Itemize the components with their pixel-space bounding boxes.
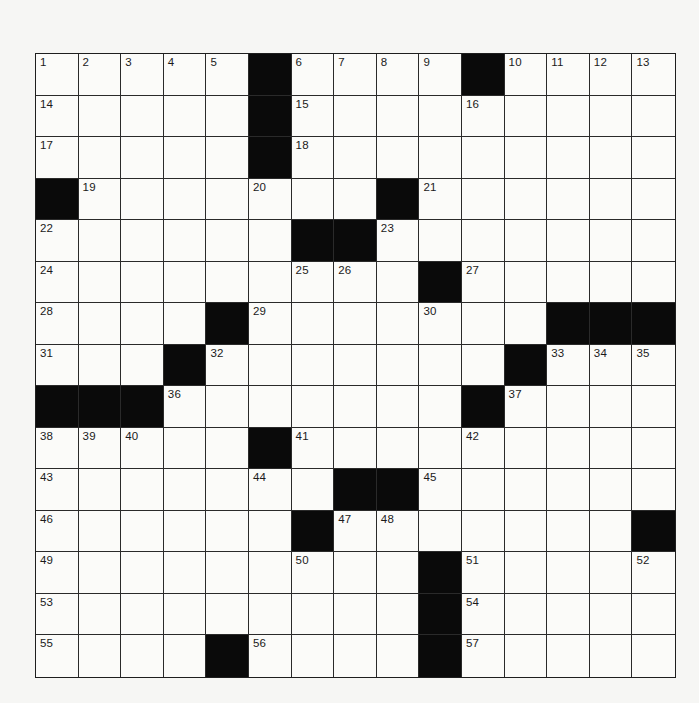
- grid-cell[interactable]: 46: [36, 511, 79, 553]
- grid-cell[interactable]: [419, 386, 462, 428]
- grid-cell[interactable]: [79, 137, 122, 179]
- grid-cell[interactable]: [377, 552, 420, 594]
- grid-cell[interactable]: 19: [79, 179, 122, 221]
- grid-cell[interactable]: [632, 386, 675, 428]
- grid-cell[interactable]: [206, 220, 249, 262]
- grid-cell[interactable]: 37: [505, 386, 548, 428]
- grid-cell[interactable]: [632, 262, 675, 304]
- grid-cell[interactable]: [505, 220, 548, 262]
- grid-cell[interactable]: 55: [36, 635, 79, 677]
- grid-cell[interactable]: 30: [419, 303, 462, 345]
- grid-cell[interactable]: [292, 345, 335, 387]
- grid-cell[interactable]: [164, 303, 207, 345]
- grid-cell[interactable]: [249, 594, 292, 636]
- grid-cell[interactable]: 1: [36, 54, 79, 96]
- grid-cell[interactable]: [79, 635, 122, 677]
- grid-cell[interactable]: [292, 179, 335, 221]
- grid-cell[interactable]: [249, 511, 292, 553]
- grid-cell[interactable]: [590, 469, 633, 511]
- grid-cell[interactable]: [334, 594, 377, 636]
- grid-cell[interactable]: [164, 220, 207, 262]
- grid-cell[interactable]: 52: [632, 552, 675, 594]
- grid-cell[interactable]: [590, 179, 633, 221]
- grid-cell[interactable]: [121, 137, 164, 179]
- grid-cell[interactable]: 32: [206, 345, 249, 387]
- grid-cell[interactable]: [547, 179, 590, 221]
- grid-cell[interactable]: 41: [292, 428, 335, 470]
- grid-cell[interactable]: 31: [36, 345, 79, 387]
- grid-cell[interactable]: [505, 179, 548, 221]
- grid-cell[interactable]: [505, 469, 548, 511]
- grid-cell[interactable]: [164, 179, 207, 221]
- grid-cell[interactable]: [590, 635, 633, 677]
- grid-cell[interactable]: [419, 96, 462, 138]
- grid-cell[interactable]: 51: [462, 552, 505, 594]
- grid-cell[interactable]: [334, 303, 377, 345]
- grid-cell[interactable]: [547, 262, 590, 304]
- grid-cell[interactable]: [206, 386, 249, 428]
- grid-cell[interactable]: 11: [547, 54, 590, 96]
- grid-cell[interactable]: [292, 594, 335, 636]
- grid-cell[interactable]: [462, 303, 505, 345]
- grid-cell[interactable]: 27: [462, 262, 505, 304]
- grid-cell[interactable]: 4: [164, 54, 207, 96]
- grid-cell[interactable]: [377, 635, 420, 677]
- grid-cell[interactable]: [206, 96, 249, 138]
- grid-cell[interactable]: 44: [249, 469, 292, 511]
- grid-cell[interactable]: [334, 179, 377, 221]
- grid-cell[interactable]: [334, 386, 377, 428]
- grid-cell[interactable]: [79, 469, 122, 511]
- grid-cell[interactable]: [419, 511, 462, 553]
- grid-cell[interactable]: [121, 96, 164, 138]
- grid-cell[interactable]: [206, 469, 249, 511]
- grid-cell[interactable]: [547, 220, 590, 262]
- grid-cell[interactable]: 12: [590, 54, 633, 96]
- grid-cell[interactable]: [79, 594, 122, 636]
- grid-cell[interactable]: [505, 262, 548, 304]
- grid-cell[interactable]: [505, 137, 548, 179]
- grid-cell[interactable]: [547, 511, 590, 553]
- grid-cell[interactable]: 3: [121, 54, 164, 96]
- grid-cell[interactable]: [590, 552, 633, 594]
- grid-cell[interactable]: 16: [462, 96, 505, 138]
- grid-cell[interactable]: 20: [249, 179, 292, 221]
- grid-cell[interactable]: [377, 96, 420, 138]
- grid-cell[interactable]: [505, 594, 548, 636]
- grid-cell[interactable]: [164, 635, 207, 677]
- grid-cell[interactable]: [632, 469, 675, 511]
- grid-cell[interactable]: [334, 552, 377, 594]
- grid-cell[interactable]: [590, 262, 633, 304]
- grid-cell[interactable]: [249, 345, 292, 387]
- grid-cell[interactable]: [419, 345, 462, 387]
- grid-cell[interactable]: [249, 220, 292, 262]
- grid-cell[interactable]: [462, 511, 505, 553]
- grid-cell[interactable]: [121, 262, 164, 304]
- grid-cell[interactable]: 48: [377, 511, 420, 553]
- grid-cell[interactable]: [505, 428, 548, 470]
- grid-cell[interactable]: 42: [462, 428, 505, 470]
- grid-cell[interactable]: [79, 511, 122, 553]
- grid-cell[interactable]: [505, 552, 548, 594]
- grid-cell[interactable]: [79, 262, 122, 304]
- grid-cell[interactable]: [292, 469, 335, 511]
- grid-cell[interactable]: [164, 511, 207, 553]
- grid-cell[interactable]: [377, 594, 420, 636]
- grid-cell[interactable]: [206, 262, 249, 304]
- grid-cell[interactable]: [164, 469, 207, 511]
- grid-cell[interactable]: 10: [505, 54, 548, 96]
- grid-cell[interactable]: [164, 96, 207, 138]
- grid-cell[interactable]: [547, 469, 590, 511]
- grid-cell[interactable]: [377, 137, 420, 179]
- grid-cell[interactable]: [462, 345, 505, 387]
- grid-cell[interactable]: [419, 220, 462, 262]
- grid-cell[interactable]: [377, 345, 420, 387]
- grid-cell[interactable]: [590, 428, 633, 470]
- grid-cell[interactable]: 17: [36, 137, 79, 179]
- grid-cell[interactable]: 5: [206, 54, 249, 96]
- grid-cell[interactable]: [505, 96, 548, 138]
- grid-cell[interactable]: [206, 428, 249, 470]
- grid-cell[interactable]: 28: [36, 303, 79, 345]
- grid-cell[interactable]: 8: [377, 54, 420, 96]
- grid-cell[interactable]: [547, 635, 590, 677]
- grid-cell[interactable]: [121, 635, 164, 677]
